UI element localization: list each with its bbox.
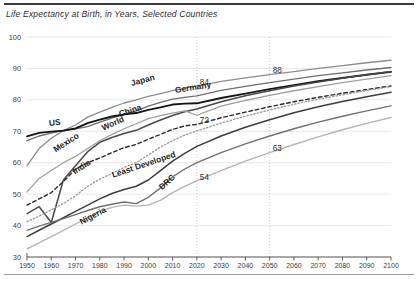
series-line-nigeria [27,117,391,248]
annotation-value: 54 [200,173,209,182]
annotation-value: 88 [273,66,282,75]
series-line-japan [27,60,391,165]
series-line-china [27,72,391,223]
y-tick-label: 60 [1,158,21,167]
y-tick-label: 70 [1,127,21,136]
y-tick-label: 50 [1,190,21,199]
y-tick-label: 40 [1,221,21,230]
annotation-value: 63 [273,144,282,153]
x-tick-label: 2100 [377,262,405,269]
y-tick-label: 100 [1,33,21,42]
y-tick-label: 80 [1,95,21,104]
series-line-india [27,87,391,222]
series-label-us: US [48,117,61,128]
annotation-value: 72 [200,116,209,125]
series-line-world [27,86,391,205]
annotation-value: 84 [200,78,209,87]
y-tick-label: 90 [1,64,21,73]
y-tick-label: 30 [1,253,21,262]
chart-figure: Life Expectancy at Birth, in Years, Sele… [0,0,418,285]
